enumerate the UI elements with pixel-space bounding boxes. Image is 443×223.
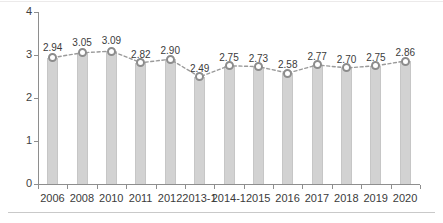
data-point-marker (107, 47, 116, 56)
data-value-label: 2.82 (126, 50, 156, 60)
plot-area: 01234 2.943.053.092.822.902.492.752.732.… (0, 0, 443, 223)
data-value-label: 2.73 (243, 54, 273, 64)
data-value-label: 2.90 (155, 46, 185, 56)
data-value-label: 2.58 (273, 60, 303, 70)
line-series-connector (0, 0, 443, 223)
data-value-label: 2.86 (390, 48, 420, 58)
data-value-label: 2.94 (38, 43, 68, 53)
data-value-label: 3.09 (96, 36, 126, 46)
x-axis-category-label: 2020 (388, 192, 423, 204)
chart-container: 01234 2.943.053.092.822.902.492.752.732.… (0, 0, 443, 223)
data-value-label: 3.05 (67, 38, 97, 48)
data-point-marker (78, 48, 87, 57)
data-value-label: 2.75 (361, 53, 391, 63)
bottom-separator-rule (8, 212, 435, 213)
data-value-label: 2.70 (332, 55, 362, 65)
data-value-label: 2.49 (185, 64, 215, 74)
data-value-label: 2.75 (214, 53, 244, 63)
data-value-label: 2.77 (302, 52, 332, 62)
